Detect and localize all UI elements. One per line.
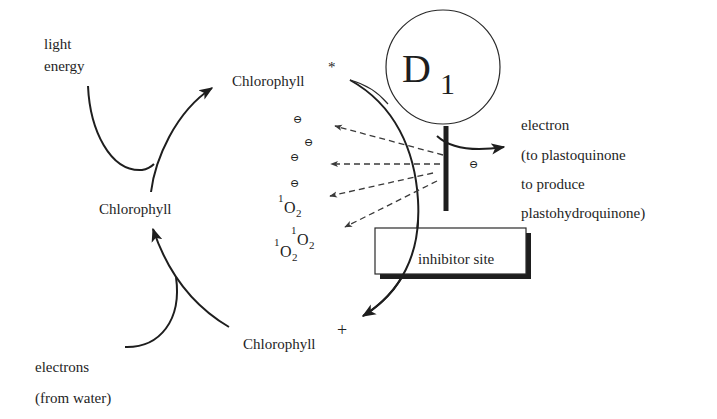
electron-out-line3: to produce (521, 176, 585, 192)
photosystem-diagram: light energy Chlorophyll Chlorophyll * D… (0, 0, 717, 419)
so-sup: 1 (274, 236, 280, 248)
electron-minus-4: ⊖ (290, 177, 299, 189)
so-sup: 1 (278, 192, 284, 204)
electron-minus-1: ⊖ (293, 113, 302, 125)
electron-minus-3: ⊖ (290, 151, 299, 163)
electron-out-line2: (to plastoquinone (521, 147, 626, 164)
d1-subscript: 1 (440, 67, 455, 100)
inhibitor-site-box: inhibitor site (375, 228, 531, 279)
released-electrons: ⊖ ⊖ ⊖ ⊖ (290, 113, 313, 189)
excited-asterisk: * (328, 59, 336, 75)
singlet-oxygen-1: 1 O 2 (278, 192, 302, 219)
water-electron-curve (125, 277, 177, 347)
chlorophyll-excited-text: Chlorophyll (232, 73, 305, 89)
electrons-from-water-label: electrons (from water) (35, 359, 111, 407)
light-label-line1: light (44, 36, 72, 52)
singlet-oxygen-3: 1 O 2 (274, 236, 298, 263)
dashed-arrow-1 (335, 126, 443, 155)
leak-arrows (330, 126, 443, 227)
so-sub: 2 (292, 251, 298, 263)
excitation-arrow (151, 88, 212, 192)
reduction-arrow (153, 229, 229, 327)
electron-out-line1: electron (521, 117, 570, 133)
light-label-line2: energy (44, 58, 85, 74)
so-base: O (297, 231, 309, 248)
so-sub: 2 (296, 207, 302, 219)
so-sup: 1 (291, 224, 297, 236)
chlorophyll-cation-label: Chlorophyll + (243, 320, 347, 352)
electrons-in-line2: (from water) (35, 390, 111, 407)
inhibitor-site-label: inhibitor site (418, 251, 495, 267)
light-energy-label: light energy (44, 36, 85, 74)
dashed-arrow-4 (345, 181, 437, 227)
chlorophyll-excited-label: Chlorophyll * (232, 59, 336, 89)
chlorophyll-cation-text: Chlorophyll (243, 336, 316, 352)
d1-letter: D (402, 46, 431, 91)
chlorophyll-ground-label: Chlorophyll (99, 201, 172, 217)
d1-protein: D 1 (386, 10, 500, 124)
electron-out-line4: plastohydroquinone) (521, 205, 645, 222)
so-sub: 2 (309, 239, 315, 251)
so-base: O (280, 243, 292, 260)
electrons-in-line1: electrons (35, 359, 89, 375)
electron-destination-label: electron (to plastoquinone to produce pl… (521, 117, 645, 222)
electron-minus-2: ⊖ (304, 136, 313, 148)
charge-separation-arc (350, 80, 418, 316)
light-energy-curve (88, 86, 154, 170)
singlet-oxygen-2: 1 O 2 (291, 224, 315, 251)
so-base: O (284, 199, 296, 216)
cation-plus: + (337, 320, 347, 340)
electron-minus-right: ⊖ (469, 158, 478, 170)
